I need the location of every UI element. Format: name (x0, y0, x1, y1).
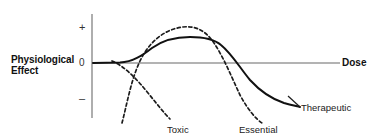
dose-response-figure: Physiological Effect Dose + 0 – Toxic Es… (0, 0, 375, 139)
curve-label-therapeutic: Therapeutic (301, 102, 351, 113)
y-tick-positive: + (79, 22, 85, 33)
y-axis-title: Physiological Effect (11, 54, 74, 76)
therapeutic-curve (93, 37, 300, 107)
y-tick-negative: – (79, 93, 85, 104)
curve-label-toxic: Toxic (167, 124, 189, 135)
toxic-curve (112, 61, 170, 119)
y-tick-zero: 0 (79, 57, 85, 68)
essential-curve (122, 27, 262, 123)
x-axis-title: Dose (342, 57, 366, 68)
curve-label-essential: Essential (239, 124, 278, 135)
